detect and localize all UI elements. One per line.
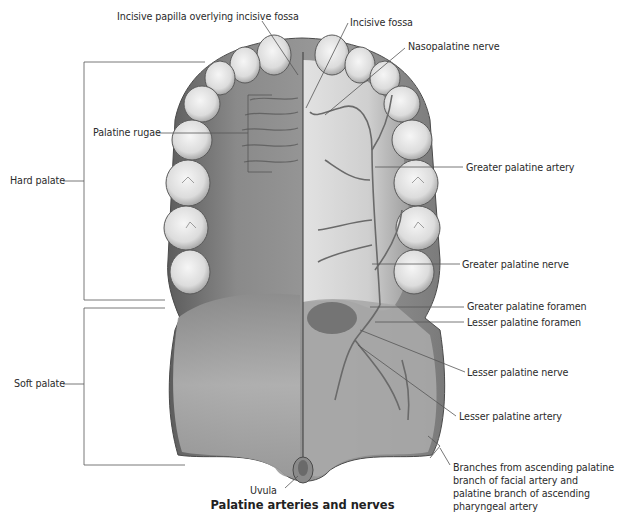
label-lesser-palatine-foramen: Lesser palatine foramen [467,316,581,329]
label-greater-palatine-foramen: Greater palatine foramen [467,300,587,313]
label-lesser-palatine-artery: Lesser palatine artery [459,410,562,423]
label-palatine-rugae: Palatine rugae [93,126,161,139]
label-soft-palate: Soft palate [14,377,65,390]
label-incisive-papilla: Incisive papilla overlying incisive foss… [117,10,299,23]
label-lesser-palatine-nerve: Lesser palatine nerve [467,366,568,379]
label-greater-palatine-artery: Greater palatine artery [466,161,574,174]
label-hard-palate: Hard palate [10,174,65,187]
label-nasopalatine-nerve: Nasopalatine nerve [408,40,500,53]
figure-title: Palatine arteries and nerves [0,498,605,512]
label-greater-palatine-nerve: Greater palatine nerve [462,258,569,271]
label-uvula: Uvula [250,484,277,497]
label-incisive-fossa: Incisive fossa [350,16,413,29]
